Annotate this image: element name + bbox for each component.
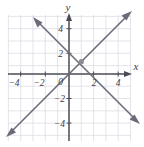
graph-canvas: −4 −2 2 4 4 2 −2 −4 0 x y — [0, 0, 144, 147]
y-axis-label: y — [65, 1, 71, 13]
x-tick-label-neg4: −4 — [8, 78, 19, 88]
x-tick-label-2: 2 — [92, 78, 97, 88]
x-tick-label-4: 4 — [116, 78, 121, 88]
x-axis-label: x — [133, 60, 139, 72]
y-tick-label-2: 2 — [58, 49, 63, 59]
line-y-equals-neg-x-plus-2 — [33, 17, 140, 124]
origin-label: 0 — [58, 77, 63, 87]
x-tick-label-neg2: −2 — [33, 78, 44, 88]
coordinate-graph-figure: −4 −2 2 4 4 2 −2 −4 0 x y — [0, 0, 144, 147]
y-tick-label-neg4: −4 — [54, 119, 65, 129]
y-tick-label-4: 4 — [58, 24, 63, 34]
intersection-point — [79, 59, 84, 64]
y-tick-label-neg2: −2 — [54, 94, 65, 104]
